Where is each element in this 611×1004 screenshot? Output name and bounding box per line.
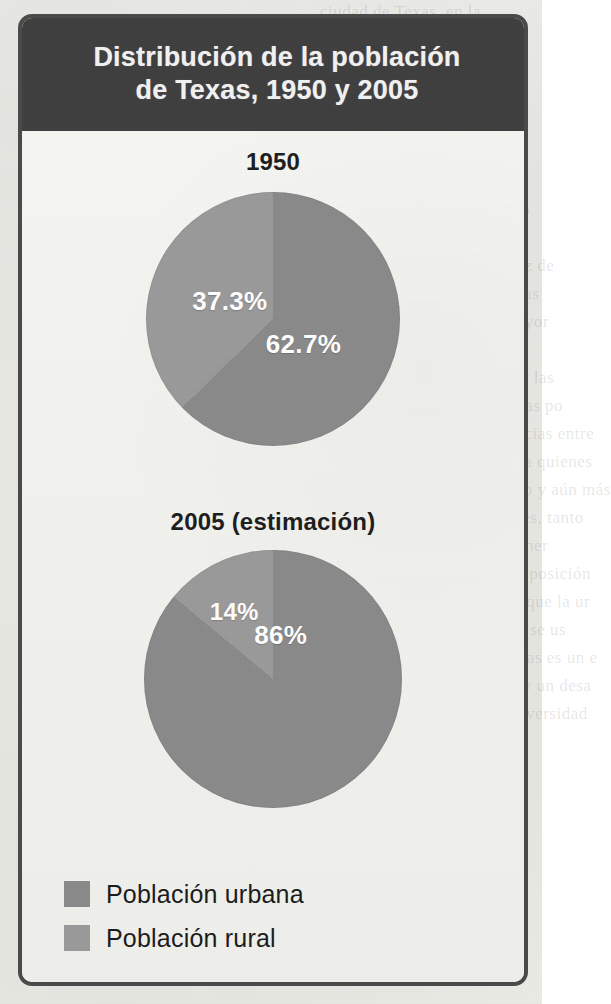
- pie-1950-label-urbana: 62.7%: [266, 329, 341, 360]
- chart-1950: 1950 62.7% 37.3%: [22, 148, 524, 446]
- pie-2005: 86% 14%: [144, 550, 402, 808]
- legend-label-urbana: Población urbana: [106, 880, 304, 909]
- figure-card: Distribución de la población de Texas, 1…: [18, 14, 528, 986]
- pie-2005-label-urbana: 86%: [254, 620, 307, 651]
- legend: Población urbana Población rural: [64, 872, 304, 960]
- figure-title: Distribución de la población de Texas, 1…: [79, 41, 474, 107]
- legend-item-rural: Población rural: [64, 916, 304, 960]
- figure-header: Distribución de la población de Texas, 1…: [21, 17, 528, 131]
- pie-2005-label-rural: 14%: [210, 598, 259, 626]
- pie-1950: 62.7% 37.3%: [146, 192, 400, 446]
- figure-body: 1950 62.7% 37.3% 2005 (estimación) 86% 1…: [22, 132, 524, 982]
- legend-item-urbana: Población urbana: [64, 872, 304, 916]
- pie-2005-slices: [144, 550, 402, 808]
- pie-1950-label-rural: 37.3%: [192, 286, 267, 317]
- chart-1950-heading: 1950: [22, 148, 524, 176]
- legend-swatch-rural-icon: [64, 925, 90, 951]
- chart-2005-heading: 2005 (estimación): [22, 508, 524, 536]
- legend-swatch-urbana-icon: [64, 881, 90, 907]
- legend-label-rural: Población rural: [106, 924, 276, 953]
- chart-2005: 2005 (estimación) 86% 14%: [22, 508, 524, 808]
- pie-1950-slices: [146, 192, 400, 446]
- figure-title-line-1: Distribución de la población: [93, 42, 460, 72]
- figure-title-line-2: de Texas, 1950 y 2005: [136, 75, 419, 105]
